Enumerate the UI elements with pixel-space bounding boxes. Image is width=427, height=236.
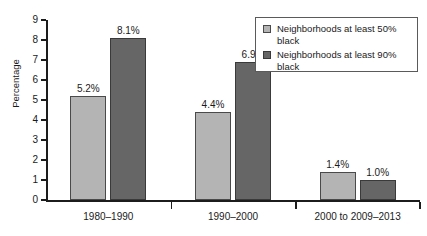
bar bbox=[70, 96, 106, 200]
y-axis-line bbox=[46, 20, 48, 201]
x-axis-end-tick-mark bbox=[419, 202, 421, 209]
legend-item: Neighborhoods at least 90% black bbox=[263, 49, 411, 72]
x-axis-tick-mark bbox=[295, 202, 297, 209]
y-axis-tick-label: 4 bbox=[22, 115, 38, 125]
y-axis-tick-label: 2 bbox=[22, 155, 38, 165]
y-axis-tick-label: 9 bbox=[22, 15, 38, 25]
y-axis-tick-label: 3 bbox=[22, 135, 38, 145]
y-axis-tick-label: 7 bbox=[22, 55, 38, 65]
x-axis-tick-mark bbox=[171, 202, 173, 209]
x-axis-line bbox=[46, 200, 420, 202]
bar-value-label: 4.4% bbox=[187, 99, 239, 110]
bar-chart: Percentage 0123456789 5.2%8.1%4.4%6.9%1.… bbox=[0, 0, 427, 236]
legend-item-label: Neighborhoods at least 50% black bbox=[277, 23, 409, 46]
bar bbox=[195, 112, 231, 200]
bar-value-label: 1.0% bbox=[352, 167, 404, 178]
legend: Neighborhoods at least 50% black Neighbo… bbox=[255, 17, 418, 72]
y-axis-tick-label: 5 bbox=[22, 95, 38, 105]
bar bbox=[360, 180, 396, 200]
x-axis-group-label: 1980–1990 bbox=[48, 211, 168, 223]
y-axis-tick-label: 0 bbox=[22, 195, 38, 205]
y-axis-tick-label: 1 bbox=[22, 175, 38, 185]
y-axis-ticks: 0123456789 bbox=[0, 0, 46, 236]
legend-item: Neighborhoods at least 50% black bbox=[263, 23, 411, 46]
bar bbox=[235, 62, 271, 200]
bar bbox=[110, 38, 146, 200]
y-axis-tick-label: 8 bbox=[22, 35, 38, 45]
bar-value-label: 5.2% bbox=[62, 83, 114, 94]
light-gray-swatch-icon bbox=[263, 25, 271, 33]
x-axis-group-label: 2000 to 2009–2013 bbox=[298, 211, 418, 223]
bar-value-label: 8.1% bbox=[102, 25, 154, 36]
legend-item-label: Neighborhoods at least 90% black bbox=[277, 49, 409, 72]
x-axis-group-label: 1990–2000 bbox=[173, 211, 293, 223]
bar bbox=[320, 172, 356, 200]
y-axis-tick-label: 6 bbox=[22, 75, 38, 85]
dark-gray-swatch-icon bbox=[263, 51, 271, 59]
